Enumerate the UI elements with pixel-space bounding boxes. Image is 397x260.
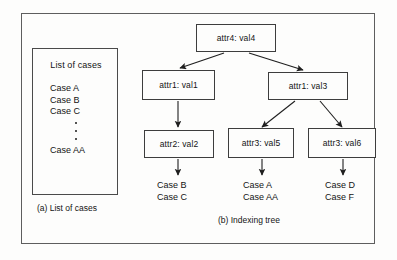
- list-of-cases-box: List of cases Case A Case B Case C Case …: [32, 48, 118, 195]
- caption-list-of-cases: (a) List of cases: [37, 203, 97, 213]
- figure-container: List of cases Case A Case B Case C Case …: [0, 0, 397, 260]
- leaf-case-line: Case B: [157, 180, 187, 192]
- list-item-last: Case AA: [50, 145, 85, 155]
- tree-node-attr1-val3[interactable]: attr1: val3: [268, 72, 348, 100]
- list-of-cases-items: Case A Case B Case C: [50, 83, 80, 118]
- tree-node-attr1-val1[interactable]: attr1: val1: [142, 70, 215, 100]
- list-item: Case B: [50, 95, 80, 107]
- tree-node-attr2-val2[interactable]: attr2: val2: [144, 130, 214, 158]
- vertical-ellipsis-icon: [33, 122, 119, 146]
- leaf-case-line: Case C: [157, 192, 187, 204]
- leaf-case-line: Case AA: [243, 192, 278, 204]
- leaf-case-line: Case A: [243, 180, 278, 192]
- leaf-case-line: Case F: [325, 192, 355, 204]
- list-item: Case A: [50, 83, 80, 95]
- list-item: Case C: [50, 106, 80, 118]
- tree-leaf-cases-2: Case A Case AA: [243, 180, 278, 203]
- tree-leaf-cases-1: Case B Case C: [157, 180, 187, 203]
- list-of-cases-title: List of cases: [33, 60, 119, 70]
- leaf-case-line: Case D: [325, 180, 355, 192]
- tree-node-attr3-val6[interactable]: attr3: val6: [308, 128, 376, 158]
- caption-indexing-tree: (b) Indexing tree: [218, 215, 280, 225]
- tree-node-attr3-val5[interactable]: attr3: val5: [228, 128, 294, 158]
- tree-leaf-cases-3: Case D Case F: [325, 180, 355, 203]
- tree-node-root[interactable]: attr4: val4: [196, 24, 276, 52]
